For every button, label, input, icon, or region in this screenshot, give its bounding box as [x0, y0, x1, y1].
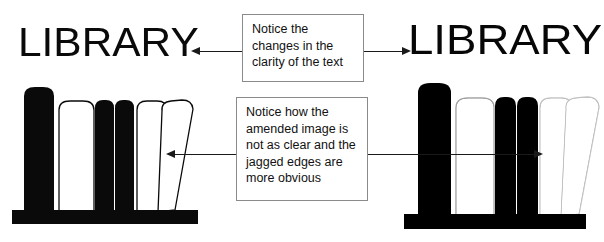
book-2 [59, 101, 94, 212]
arrow-shaft [363, 51, 405, 52]
library-wordmark-amended: LIBRARY [408, 18, 602, 61]
arrowhead-right-icon [534, 150, 543, 158]
callout-jagged-line-2: amended image is [246, 121, 358, 138]
arrowhead-right-icon [402, 47, 411, 55]
bookshelf-svg-amended [404, 80, 600, 234]
arrow-shaft [368, 154, 536, 155]
callout-jagged-line-3: not as clear and the [246, 137, 358, 154]
book-3 [495, 97, 516, 216]
book-4 [115, 100, 134, 212]
book-1 [24, 87, 54, 212]
callout-clarity-line-3: clarity of the text [252, 54, 354, 71]
library-wordmark-original: LIBRARY [18, 22, 199, 62]
bookshelf-illustration-amended [404, 80, 600, 234]
callout-box-clarity: Notice the changes in the clarity of the… [242, 14, 364, 82]
callout-jagged-line-5: more obvious [246, 170, 358, 187]
book-3 [95, 100, 114, 212]
callout-jagged-line-4: jagged edges are [246, 154, 358, 171]
callout-box-jagged: Notice how the amended image is not as c… [236, 97, 368, 201]
callout-jagged-line-1: Notice how the [246, 104, 358, 121]
callout-clarity-line-2: changes in the [252, 38, 354, 55]
arrow-shaft [174, 154, 239, 155]
diagram-canvas: LIBRARY LIBRARY [0, 0, 604, 242]
book-6-leaning [561, 97, 599, 216]
book-6-leaning [158, 100, 193, 212]
shelf-base [404, 214, 586, 229]
shelf-base [12, 210, 198, 224]
book-1 [418, 83, 451, 216]
callout-clarity-line-1: Notice the [252, 21, 354, 38]
book-2 [456, 98, 494, 216]
arrow-shaft [199, 51, 244, 52]
